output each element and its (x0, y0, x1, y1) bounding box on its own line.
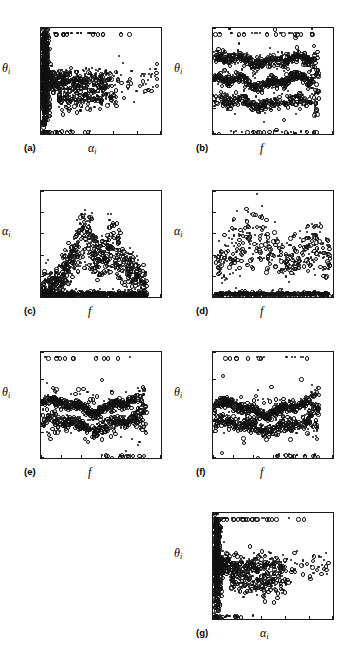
panel-g-label: (g) (196, 627, 208, 638)
x-tick-mark (233, 455, 234, 458)
y-tick-mark (41, 81, 44, 82)
y-tick-mark (213, 81, 216, 82)
panel-b-ticks: 050100150200250300-100-50050100 (213, 28, 333, 134)
x-tick-mark (160, 294, 161, 297)
panel-g: θi 11.522.533.5-100-50050100 αi (g) (172, 485, 345, 647)
panel-g-frame: 11.522.533.5-100-50050100 (212, 512, 334, 620)
x-tick-mark (313, 455, 314, 458)
y-tick-mark (213, 55, 216, 56)
panel-c-label: (c) (24, 305, 36, 316)
panel-f-xlabel: f (260, 465, 263, 480)
panel-g-ylabel-sub: i (180, 552, 182, 561)
panel-b-frame: 050100150200250300-100-50050100 (212, 27, 334, 135)
panel-a-ylabel-sub: i (8, 67, 10, 76)
panel-d-ylabel-sub: i (180, 230, 182, 239)
panel-e-ylabel-sub: i (8, 391, 10, 400)
y-tick-mark (213, 28, 216, 29)
x-tick-mark (264, 294, 265, 297)
y-tick-mark (213, 233, 216, 234)
panel-a-frame: 11.522.533.5-100-50050100 (40, 27, 162, 135)
panel-g-ylabel: θi (174, 547, 182, 561)
y-tick-mark (213, 133, 216, 134)
x-tick-mark (113, 131, 114, 134)
x-tick-mark (141, 455, 142, 458)
y-tick-mark (213, 540, 216, 541)
x-tick-mark (101, 455, 102, 458)
y-tick-mark (213, 432, 216, 433)
y-tick-mark (213, 566, 216, 567)
panel-b-ylabel: θi (174, 62, 182, 76)
y-tick-mark (213, 618, 216, 619)
y-tick-mark (41, 276, 44, 277)
x-tick-mark (121, 294, 122, 297)
x-tick-mark (233, 131, 234, 134)
panel-e-xlabel: f (88, 465, 91, 480)
y-tick-mark (213, 593, 216, 594)
panel-a-ticks: 11.522.533.5-100-50050100 (41, 28, 161, 134)
panel-a-ylabel: θi (2, 62, 10, 76)
panel-g-ticks: 11.522.533.5-100-50050100 (213, 513, 333, 619)
x-tick-mark (65, 131, 66, 134)
y-tick-mark (213, 405, 216, 406)
panel-f-frame: 050100150200250300-100-50050100 (212, 351, 334, 459)
panel-f-ylabel-sub: i (180, 391, 182, 400)
panel-e-frame: 050100150200250300-100-50050100 (40, 351, 162, 459)
y-tick-mark (213, 212, 216, 213)
panel-g-xlabel-sub: i (266, 632, 268, 641)
x-tick-mark (253, 455, 254, 458)
y-tick-mark (41, 191, 44, 192)
x-tick-mark (160, 455, 161, 458)
panel-c-xlabel: f (88, 304, 91, 319)
y-tick-mark (213, 296, 216, 297)
panel-a: θi 11.522.533.5-100-50050100 αi (a) (0, 0, 173, 162)
y-tick-mark (41, 457, 44, 458)
panel-b: θi 050100150200250300-100-50050100 f (b) (172, 0, 345, 162)
x-tick-mark (253, 131, 254, 134)
x-tick-mark (316, 294, 317, 297)
panel-a-xlabel-sub: i (94, 147, 96, 156)
y-tick-mark (41, 233, 44, 234)
y-tick-mark (41, 55, 44, 56)
x-tick-mark (273, 131, 274, 134)
x-tick-mark (141, 294, 142, 297)
y-tick-mark (41, 379, 44, 380)
x-tick-mark (81, 294, 82, 297)
x-tick-mark (230, 294, 231, 297)
panel-d: αi 608010012014016018020011.522.533.5 f … (172, 163, 345, 325)
y-tick-mark (213, 276, 216, 277)
x-tick-mark (285, 616, 286, 619)
y-tick-mark (41, 255, 44, 256)
x-tick-mark (89, 131, 90, 134)
x-tick-mark (121, 455, 122, 458)
panel-g-xlabel: αi (260, 626, 269, 641)
y-tick-mark (41, 28, 44, 29)
panel-f-ticks: 050100150200250300-100-50050100 (213, 352, 333, 458)
panel-c-frame: 05010015020025030011.522.533.5 (40, 190, 162, 298)
x-tick-mark (273, 455, 274, 458)
x-tick-mark (247, 294, 248, 297)
y-tick-mark (41, 352, 44, 353)
x-tick-mark (332, 131, 333, 134)
panel-f-ylabel: θi (174, 386, 182, 400)
panel-d-label: (d) (196, 305, 208, 316)
x-tick-mark (61, 294, 62, 297)
y-tick-mark (213, 379, 216, 380)
y-tick-mark (213, 513, 216, 514)
x-tick-mark (332, 294, 333, 297)
x-tick-mark (160, 131, 161, 134)
y-tick-mark (213, 108, 216, 109)
x-tick-mark (299, 294, 300, 297)
y-tick-mark (213, 255, 216, 256)
x-tick-mark (332, 616, 333, 619)
y-tick-mark (41, 296, 44, 297)
x-tick-mark (313, 131, 314, 134)
x-tick-mark (137, 131, 138, 134)
y-tick-mark (213, 352, 216, 353)
x-tick-mark (293, 455, 294, 458)
y-tick-mark (41, 212, 44, 213)
panel-d-frame: 608010012014016018020011.522.533.5 (212, 190, 334, 298)
panel-f: θi 050100150200250300-100-50050100 f (f) (172, 324, 345, 486)
panel-e-ylabel: θi (2, 386, 10, 400)
y-tick-mark (41, 133, 44, 134)
y-tick-mark (41, 405, 44, 406)
